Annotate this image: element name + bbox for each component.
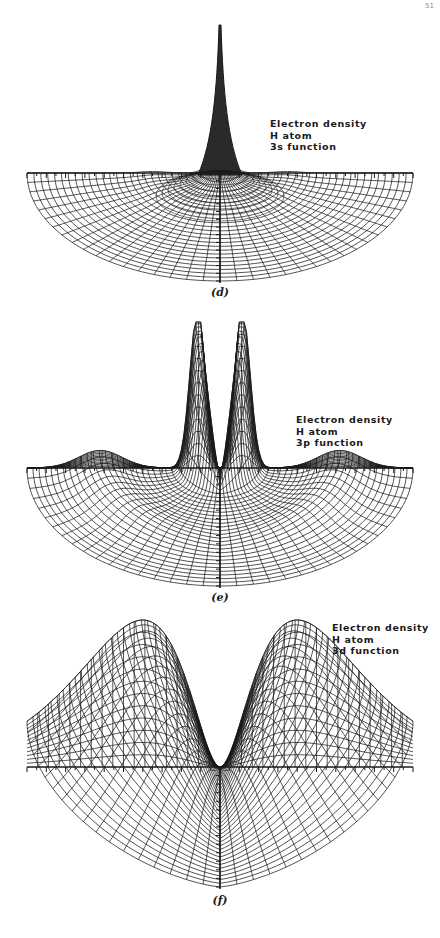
figure-caption-f: (f) [200, 894, 240, 907]
figure-d-3s-density: Electron density H atom 3s function (d) [0, 0, 440, 300]
legend-line-function: 3d function [332, 645, 429, 657]
legend-3s: Electron density H atom 3s function [270, 118, 367, 153]
legend-3d: Electron density H atom 3d function [332, 622, 429, 657]
legend-line-atom: H atom [296, 426, 393, 438]
figure-e-3p-density: Electron density H atom 3p function (e) [0, 300, 440, 610]
legend-line-function: 3p function [296, 437, 393, 449]
legend-line-title: Electron density [270, 118, 367, 130]
figure-f-3d-density: Electron density H atom 3d function (f) [0, 610, 440, 938]
legend-line-function: 3s function [270, 141, 367, 153]
wireframe-surface-3d [0, 610, 440, 938]
legend-line-title: Electron density [296, 414, 393, 426]
legend-line-atom: H atom [270, 130, 367, 142]
legend-line-atom: H atom [332, 634, 429, 646]
wireframe-surface-3s [0, 0, 440, 300]
legend-3p: Electron density H atom 3p function [296, 414, 393, 449]
wireframe-surface-3p [0, 300, 440, 610]
legend-line-title: Electron density [332, 622, 429, 634]
figure-caption-d: (d) [200, 286, 240, 299]
figure-caption-e: (e) [200, 591, 240, 604]
